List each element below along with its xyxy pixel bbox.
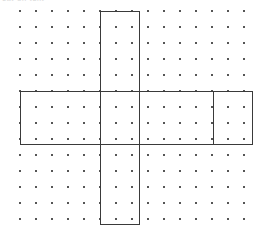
horizontal-bar-bottom-edge [20, 144, 253, 145]
horizontal-bar-left-edge [20, 91, 21, 144]
vertical-bar-left-edge [100, 11, 101, 224]
vertical-bar-bottom-edge [100, 224, 140, 225]
horizontal-bar-top-edge [20, 91, 253, 92]
vertical-bar-right-edge [139, 11, 140, 224]
dot-paper-figure-canvas: cut-off text [0, 0, 269, 241]
internal-divider-line [213, 91, 214, 144]
horizontal-bar-right-edge [252, 91, 253, 144]
vertical-bar-top-edge [100, 11, 140, 12]
figure-layer [0, 0, 269, 241]
